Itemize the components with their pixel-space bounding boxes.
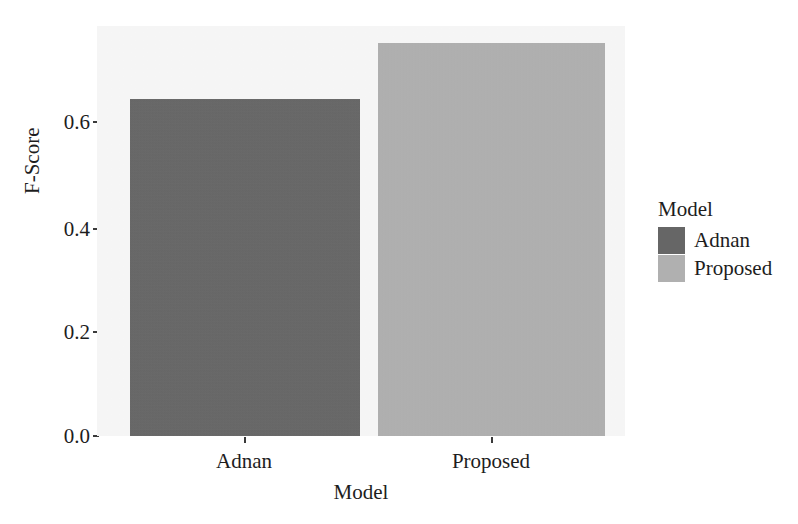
legend-item-proposed: Proposed (658, 254, 772, 282)
bar-proposed (378, 43, 605, 436)
legend: Model Adnan Proposed (658, 198, 772, 282)
plot-panel (97, 26, 625, 436)
x-tick-mark-adnan (244, 437, 246, 443)
x-axis-title: Model (97, 482, 625, 503)
bar-adnan (130, 99, 360, 436)
x-tick-mark-proposed (491, 437, 493, 443)
y-axis-tick-labels: 0.6 0.4 0.2 0.0 (0, 0, 90, 524)
legend-swatch-adnan (658, 227, 685, 254)
bar-proposed-fill (378, 43, 605, 436)
x-tick-label-proposed: Proposed (411, 450, 571, 472)
x-tick-label-adnan: Adnan (164, 450, 324, 472)
bar-chart: F-Score 0.6 0.4 0.2 0.0 Adnan Proposed M… (0, 0, 798, 524)
bar-adnan-fill (130, 99, 360, 436)
legend-label-proposed: Proposed (694, 257, 772, 279)
y-tick-label-0.6: 0.6 (64, 112, 90, 133)
legend-label-adnan: Adnan (694, 229, 750, 251)
legend-item-adnan: Adnan (658, 226, 772, 254)
legend-swatch-proposed (658, 255, 685, 282)
y-tick-label-0.0: 0.0 (64, 426, 90, 447)
y-tick-label-0.2: 0.2 (64, 322, 90, 343)
y-tick-label-0.4: 0.4 (64, 219, 90, 240)
legend-title: Model (658, 198, 772, 221)
